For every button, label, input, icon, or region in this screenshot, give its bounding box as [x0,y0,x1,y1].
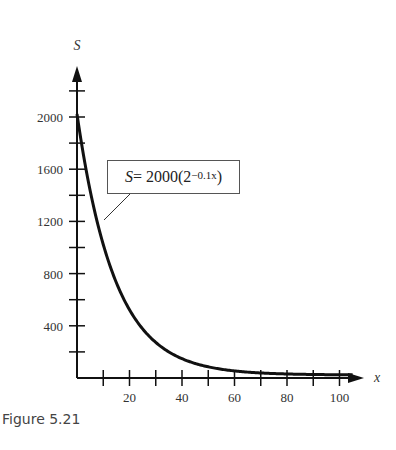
y-tick-label: 800 [44,267,64,282]
decay-curve [77,114,353,375]
y-tick-label: 1600 [37,162,63,177]
y-tick-label: 400 [44,319,64,334]
y-tick-label: 1200 [37,214,63,229]
equation-close: ) [217,168,222,186]
x-tick-label: 80 [281,390,294,405]
figure-caption: Figure 5.21 [2,411,80,427]
y-axis-arrow-icon [72,66,82,82]
x-tick-label: 100 [330,390,350,405]
axes: 40080012001600200020406080100Sx [37,38,381,405]
equation-exponent: −0.1x [191,169,216,181]
annotation-leader [104,194,130,220]
x-tick-label: 40 [176,390,189,405]
x-tick-label: 60 [228,390,241,405]
equation-body: = 2000(2 [133,168,191,186]
equation-lhs: S [125,168,133,186]
y-axis-label: S [74,38,81,53]
y-tick-label: 2000 [37,110,63,125]
x-axis-label: x [373,370,381,385]
x-tick-label: 20 [123,390,136,405]
equation-label: S = 2000(2 −0.1x ) [107,160,240,194]
chart: 40080012001600200020406080100Sx [0,0,396,450]
